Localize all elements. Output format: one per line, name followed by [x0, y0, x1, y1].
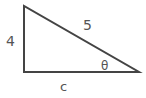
triangle [24, 6, 139, 72]
right-triangle-diagram: 4 5 c θ [0, 0, 146, 98]
vertical-side-label: 4 [6, 33, 15, 49]
angle-label: θ [101, 59, 108, 73]
hypotenuse-label: 5 [83, 17, 92, 33]
base-label: c [60, 79, 67, 94]
